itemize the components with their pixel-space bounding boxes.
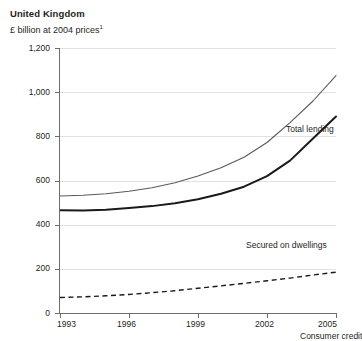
y-tick-1000 [55,92,60,93]
y-tick-label-400: 400 [2,220,50,229]
y-tick-label-0: 0 [2,309,50,318]
footnote-marker: 1 [100,24,103,30]
x-tick-label-1993: 1993 [57,320,76,329]
y-tick-600 [55,181,60,182]
y-tick-label-1200: 1,200 [2,44,50,53]
y-tick-200 [55,269,60,270]
series-lines [60,48,336,313]
x-tick-label-2002: 2002 [255,320,274,329]
x-tick-label-2005: 2005 [318,320,337,329]
x-tick-1999 [198,313,199,318]
y-tick-400 [55,225,60,226]
series-label-secured-on-dwellings: Secured on dwellings [246,240,327,250]
x-tick-label-1999: 1999 [186,320,205,329]
series-label-consumer-credit: Consumer credit [300,331,362,341]
x-tick-2005 [336,313,337,318]
y-tick-800 [55,136,60,137]
series-line-total-lending [60,76,336,196]
x-tick-label-1996: 1996 [117,320,136,329]
series-label-total-lending: Total lending [286,124,334,134]
chart-title: United Kingdom [10,8,85,19]
y-tick-label-1000: 1,000 [2,88,50,97]
plot-area: Total lending Secured on dwellings Consu… [60,48,336,313]
y-tick-label-200: 200 [2,264,50,273]
series-line-consumer-credit [60,272,336,297]
y-tick-label-600: 600 [2,176,50,185]
y-tick-label-800: 800 [2,132,50,141]
chart-subtitle: £ billion at 2004 prices1 [10,24,103,35]
x-tick-2002 [267,313,268,318]
x-tick-1996 [129,313,130,318]
y-tick-1200 [55,48,60,49]
chart-subtitle-text: £ billion at 2004 prices [10,25,100,35]
x-tick-1993 [60,313,61,318]
